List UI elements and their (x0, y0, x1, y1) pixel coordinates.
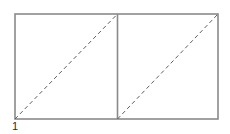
dashed-diagonal-2 (118, 14, 219, 119)
geometry-figure: 1 (0, 0, 230, 134)
figure-svg (0, 0, 230, 134)
figure-label: 1 (12, 120, 18, 132)
dashed-diagonal-1 (15, 14, 118, 119)
outer-rectangle (15, 14, 218, 119)
